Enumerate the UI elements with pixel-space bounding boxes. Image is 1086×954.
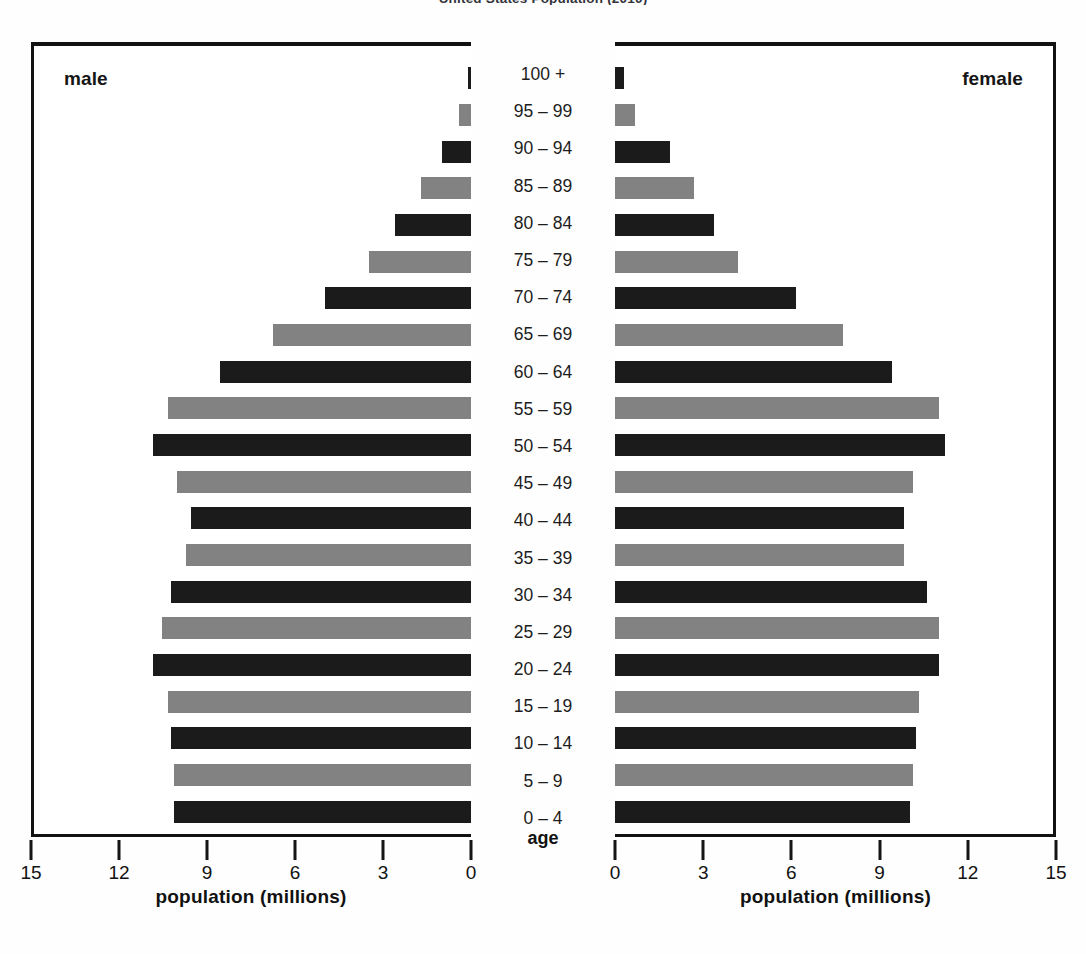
female-bar <box>615 544 904 566</box>
bar-row <box>615 720 1053 757</box>
bar-row <box>34 427 471 464</box>
age-label: 90 – 94 <box>471 130 615 167</box>
female-bar <box>615 617 939 639</box>
female-bar <box>615 67 624 89</box>
male-bar <box>191 507 471 529</box>
male-bar <box>369 251 471 273</box>
male-bar <box>168 397 471 419</box>
bar-row <box>615 793 1053 830</box>
female-bar <box>615 507 904 529</box>
female-bar <box>615 801 910 823</box>
age-label: 10 – 14 <box>471 725 615 762</box>
female-axis-title: population (millions) <box>615 886 1056 908</box>
female-bar <box>615 764 913 786</box>
female-bar <box>615 104 635 126</box>
male-bar <box>174 801 471 823</box>
male-bar <box>168 691 471 713</box>
female-bar <box>615 691 919 713</box>
bar-row <box>615 537 1053 574</box>
axis-tick <box>470 840 473 860</box>
bar-row <box>615 647 1053 684</box>
bar-row <box>615 683 1053 720</box>
female-bar <box>615 214 714 236</box>
bar-row <box>615 463 1053 500</box>
bar-row <box>615 390 1053 427</box>
axis-tick <box>790 840 793 860</box>
bar-row <box>34 463 471 500</box>
axis-tick-label: 6 <box>290 862 301 884</box>
bar-row <box>34 573 471 610</box>
male-bar <box>153 654 471 676</box>
bar-row <box>615 170 1053 207</box>
male-bar <box>171 727 471 749</box>
age-label: 65 – 69 <box>471 316 615 353</box>
bar-row <box>34 793 471 830</box>
male-bar <box>421 177 471 199</box>
bar-row <box>34 537 471 574</box>
bar-row <box>615 243 1053 280</box>
age-label: 30 – 34 <box>471 577 615 614</box>
age-axis-caption: age <box>471 828 615 849</box>
age-label: 55 – 59 <box>471 391 615 428</box>
population-pyramid-figure: United States Population (2010) male 100… <box>0 0 1086 954</box>
bar-row <box>34 133 471 170</box>
female-bar <box>615 581 927 603</box>
male-bar <box>162 617 471 639</box>
female-axis-ticks <box>615 840 1056 862</box>
male-bar <box>171 581 471 603</box>
bar-row <box>34 280 471 317</box>
age-label-column: 100 +95 – 9990 – 9485 – 8980 – 8475 – 79… <box>471 42 615 837</box>
female-bar <box>615 654 939 676</box>
axis-tick-label: 9 <box>202 862 213 884</box>
male-x-axis: 15129630 population (millions) <box>31 840 471 900</box>
bar-row <box>615 97 1053 134</box>
axis-tick <box>1055 840 1058 860</box>
bar-row <box>34 243 471 280</box>
axis-tick-label: 0 <box>466 862 477 884</box>
bar-row <box>34 317 471 354</box>
axis-tick-label: 6 <box>786 862 797 884</box>
bar-row <box>34 60 471 97</box>
bar-row <box>34 390 471 427</box>
axis-tick <box>382 840 385 860</box>
bar-row <box>34 683 471 720</box>
male-bar <box>273 324 471 346</box>
male-bar <box>177 471 471 493</box>
female-bar-group <box>615 60 1053 830</box>
male-bar <box>186 544 472 566</box>
bar-row <box>615 207 1053 244</box>
bar-row <box>615 573 1053 610</box>
bar-row <box>615 610 1053 647</box>
bar-row <box>34 97 471 134</box>
bar-row <box>34 207 471 244</box>
bar-row <box>615 133 1053 170</box>
axis-tick-label: 12 <box>957 862 978 884</box>
bar-row <box>34 353 471 390</box>
axis-tick-label: 3 <box>378 862 389 884</box>
female-bar <box>615 397 939 419</box>
bar-row <box>34 610 471 647</box>
female-bar <box>615 251 738 273</box>
male-panel: male <box>31 42 471 837</box>
age-label: 40 – 44 <box>471 502 615 539</box>
age-label: 25 – 29 <box>471 614 615 651</box>
male-bar <box>220 361 471 383</box>
bar-row <box>615 757 1053 794</box>
female-bar <box>615 471 913 493</box>
male-bar <box>395 214 471 236</box>
age-label: 15 – 19 <box>471 688 615 725</box>
axis-tick <box>614 840 617 860</box>
female-axis-tick-labels: 03691215 <box>615 862 1056 886</box>
female-bar <box>615 287 796 309</box>
bar-row <box>615 353 1053 390</box>
axis-tick <box>118 840 121 860</box>
axis-tick-label: 0 <box>610 862 621 884</box>
age-label: 75 – 79 <box>471 242 615 279</box>
age-label: 70 – 74 <box>471 279 615 316</box>
female-bar <box>615 361 892 383</box>
age-label: 50 – 54 <box>471 428 615 465</box>
female-bar <box>615 434 945 456</box>
axis-tick <box>294 840 297 860</box>
bar-row <box>615 317 1053 354</box>
axis-tick-label: 15 <box>1045 862 1066 884</box>
